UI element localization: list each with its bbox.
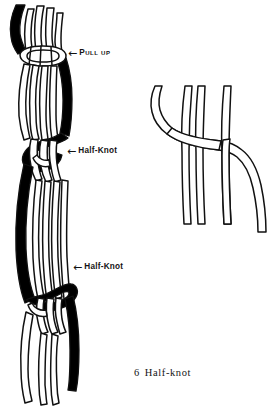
black-cord-upper-right-run [57,58,72,136]
vertical-cord-2 [196,86,205,224]
black-cord-top-tail [10,5,26,54]
arrow-left-icon: ← [68,48,77,59]
label-half-knot-lower-text: Half-Knot [84,263,123,271]
arrow-left-icon: ← [73,262,82,273]
figure-caption-title: Half-knot [145,367,191,378]
filler-cord-4-middle [61,180,70,299]
figure-caption-number: 6 [134,367,140,378]
line-art-illustration: .st { fill:#ffffff; stroke:#111111; stro… [0,0,271,414]
bottom-cord-end-1 [21,312,33,403]
label-half-knot-upper-text: Half-Knot [78,147,117,155]
black-cord-bottom-tail [65,296,79,391]
right-diagram-detail [151,86,266,232]
vertical-cord-1 [182,86,192,224]
arrow-left-icon: ← [67,146,76,157]
figure-caption: 6Half-knot [134,367,191,378]
filler-cord-4-upper [50,66,58,140]
binding-wrap-strand-3 [51,47,52,66]
figure-root: .st { fill:#ffffff; stroke:#111111; stro… [0,0,271,414]
label-pull-up: ← Pull up [68,48,110,59]
left-diagram-sennit [10,5,79,405]
filler-cord-3-upper [40,66,48,140]
bottom-cord-end-2 [39,333,47,405]
binding-wrap-inner-oval [27,50,59,62]
bottom-cord-end-3 [51,334,59,405]
label-half-knot-upper: ← Half-Knot [67,146,117,157]
label-half-knot-lower: ← Half-Knot [73,262,123,273]
filler-cord-2-upper [30,65,39,140]
label-pull-up-text: Pull up [79,49,110,57]
knotting-cord-path [151,86,266,232]
filler-cord-1-upper [19,64,30,140]
binding-wrap-strand-2 [40,46,41,66]
vertical-cord-3-over-crossing [222,139,231,224]
knotting-cord-over-segment [167,128,221,150]
